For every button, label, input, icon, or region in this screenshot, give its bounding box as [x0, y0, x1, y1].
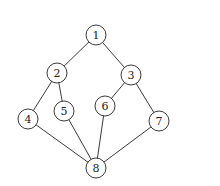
node-label: 1: [93, 29, 100, 42]
node-label: 3: [128, 69, 135, 82]
node-7: 7: [149, 111, 169, 131]
node-8: 8: [86, 158, 106, 178]
node-label: 8: [93, 162, 100, 175]
node-1: 1: [86, 25, 106, 45]
node-5: 5: [54, 101, 74, 121]
node-label: 7: [156, 115, 163, 128]
node-label: 2: [54, 67, 61, 80]
node-label: 4: [25, 113, 32, 126]
edge-7-8: [96, 121, 159, 168]
node-6: 6: [95, 96, 115, 116]
edges: [28, 35, 159, 168]
edge-4-8: [28, 119, 96, 168]
node-label: 5: [61, 105, 68, 118]
graph-diagram: 12345678: [0, 0, 220, 186]
node-3: 3: [121, 65, 141, 85]
node-label: 6: [102, 100, 109, 113]
node-2: 2: [47, 63, 67, 83]
nodes: 12345678: [18, 25, 169, 178]
node-4: 4: [18, 109, 38, 129]
